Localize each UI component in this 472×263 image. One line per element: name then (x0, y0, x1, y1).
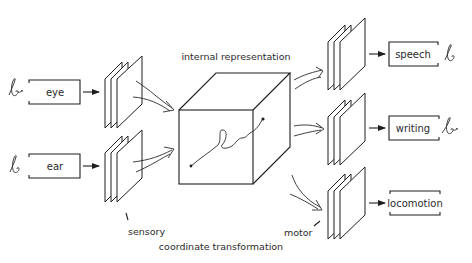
cube-top-face (179, 73, 290, 110)
trajectory-start-point (190, 165, 193, 168)
motor-label: motor (284, 227, 313, 238)
coordinate-transformation-label: coordinate transformation (159, 241, 283, 252)
input-eye: eye (9, 79, 99, 104)
sensory-stack-top (105, 56, 142, 128)
internal-representation-cube (179, 73, 290, 184)
input-ear: ear (10, 154, 99, 178)
cursive-b-icon (9, 79, 23, 96)
motor-stack-top (328, 18, 365, 90)
locomotion-label: locomotion (387, 198, 443, 209)
ear-label: ear (47, 161, 64, 172)
sensory-label: sensory (128, 226, 165, 237)
motor-stack-middle (328, 93, 365, 165)
motor-stack-bottom (328, 167, 365, 239)
diagram-canvas: eye ear internal represent (0, 0, 472, 263)
cube-to-motor-arrows (290, 67, 324, 210)
speech-label: speech (395, 49, 431, 60)
output-writing: writing (369, 116, 458, 140)
cursive-b-icon (445, 45, 454, 61)
motor-pointer (314, 221, 320, 226)
cursive-b-icon (10, 156, 19, 173)
trajectory-end-point (261, 117, 264, 120)
eye-label: eye (46, 87, 64, 98)
output-locomotion: locomotion (369, 191, 443, 215)
trajectory-curve (191, 120, 262, 166)
writing-label: writing (396, 123, 430, 134)
internal-representation-label-fallback: internal representation (181, 51, 290, 62)
sensory-pointer (126, 213, 128, 220)
output-speech: speech (369, 42, 454, 66)
sensory-stack-bottom (105, 130, 142, 202)
cursive-b-icon (442, 118, 458, 134)
cube-side-face (253, 73, 290, 184)
